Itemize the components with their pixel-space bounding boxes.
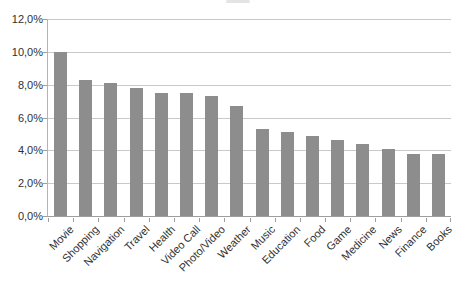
- x-axis-tick: [375, 218, 376, 222]
- bar: [130, 88, 143, 216]
- x-axis-tick: [98, 218, 99, 222]
- y-axis-tick: [43, 183, 47, 184]
- x-axis-tick: [149, 218, 150, 222]
- y-tick-label: 10,0%: [12, 46, 43, 58]
- bar: [306, 136, 319, 216]
- y-axis-tick: [43, 19, 47, 20]
- x-axis-tick: [224, 218, 225, 222]
- y-axis-tick: [43, 118, 47, 119]
- bar: [180, 93, 193, 216]
- gridline: [48, 52, 451, 53]
- y-axis-tick: [43, 85, 47, 86]
- bar: [281, 132, 294, 216]
- plot-area: [47, 19, 451, 217]
- bar: [54, 52, 67, 216]
- gridline: [48, 19, 451, 20]
- x-axis-tick: [325, 218, 326, 222]
- y-axis-tick: [43, 150, 47, 151]
- bar: [432, 154, 445, 216]
- x-axis-tick: [124, 218, 125, 222]
- bar: [356, 144, 369, 216]
- bar: [155, 93, 168, 216]
- y-tick-label: 4,0%: [18, 144, 43, 156]
- y-axis-tick: [43, 52, 47, 53]
- bar: [104, 83, 117, 216]
- x-axis-tick: [48, 218, 49, 222]
- x-axis-tick: [350, 218, 351, 222]
- bar: [382, 149, 395, 216]
- y-tick-label: 12,0%: [12, 13, 43, 25]
- x-category-label: Books: [424, 223, 454, 253]
- bar: [331, 140, 344, 216]
- bar: [407, 154, 420, 216]
- bar: [256, 129, 269, 216]
- x-axis-tick: [426, 218, 427, 222]
- y-tick-label: 0,0%: [18, 210, 43, 222]
- x-category-label: Travel: [122, 223, 152, 253]
- bar-chart: 0,0%2,0%4,0%6,0%8,0%10,0%12,0% MovieShop…: [0, 0, 454, 290]
- y-tick-label: 2,0%: [18, 177, 43, 189]
- x-axis-tick: [73, 218, 74, 222]
- bar: [79, 80, 92, 216]
- x-axis-tick: [300, 218, 301, 222]
- y-tick-label: 6,0%: [18, 112, 43, 124]
- bar: [205, 96, 218, 216]
- y-tick-label: 8,0%: [18, 79, 43, 91]
- x-axis-tick: [401, 218, 402, 222]
- y-axis-tick: [43, 216, 47, 217]
- x-axis-tick: [199, 218, 200, 222]
- x-axis-tick: [174, 218, 175, 222]
- bar: [230, 106, 243, 216]
- x-axis-tick: [275, 218, 276, 222]
- cropped-title-remnant: [226, 0, 250, 3]
- x-axis-tick: [450, 218, 451, 222]
- x-axis-tick: [250, 218, 251, 222]
